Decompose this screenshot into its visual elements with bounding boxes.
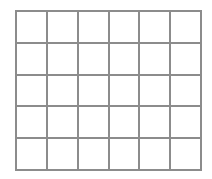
grid-cell (17, 44, 48, 76)
grid-cell (17, 107, 48, 139)
grid-cell (171, 107, 202, 139)
grid-cell (171, 44, 202, 76)
grid-cell (79, 139, 110, 171)
grid-cell (17, 12, 48, 44)
grid-cell (79, 76, 110, 108)
grid-cell (17, 139, 48, 171)
grid-cell (171, 12, 202, 44)
grid-cell (140, 76, 171, 108)
grid-cell (48, 139, 79, 171)
empty-grid (15, 10, 202, 171)
grid-cell (48, 107, 79, 139)
grid-cell (140, 44, 171, 76)
grid-cell (110, 12, 141, 44)
grid-cell (140, 12, 171, 44)
grid-cell (110, 139, 141, 171)
grid-cell (79, 107, 110, 139)
grid-cell (110, 76, 141, 108)
grid-cell (48, 12, 79, 44)
grid-cell (79, 12, 110, 44)
grid-cell (110, 44, 141, 76)
grid-cell (110, 107, 141, 139)
grid-cell (48, 76, 79, 108)
grid-cell (171, 76, 202, 108)
grid-cell (140, 107, 171, 139)
grid-cell (140, 139, 171, 171)
grid-cell (171, 139, 202, 171)
grid-cell (48, 44, 79, 76)
grid-cell (17, 76, 48, 108)
grid-cell (79, 44, 110, 76)
